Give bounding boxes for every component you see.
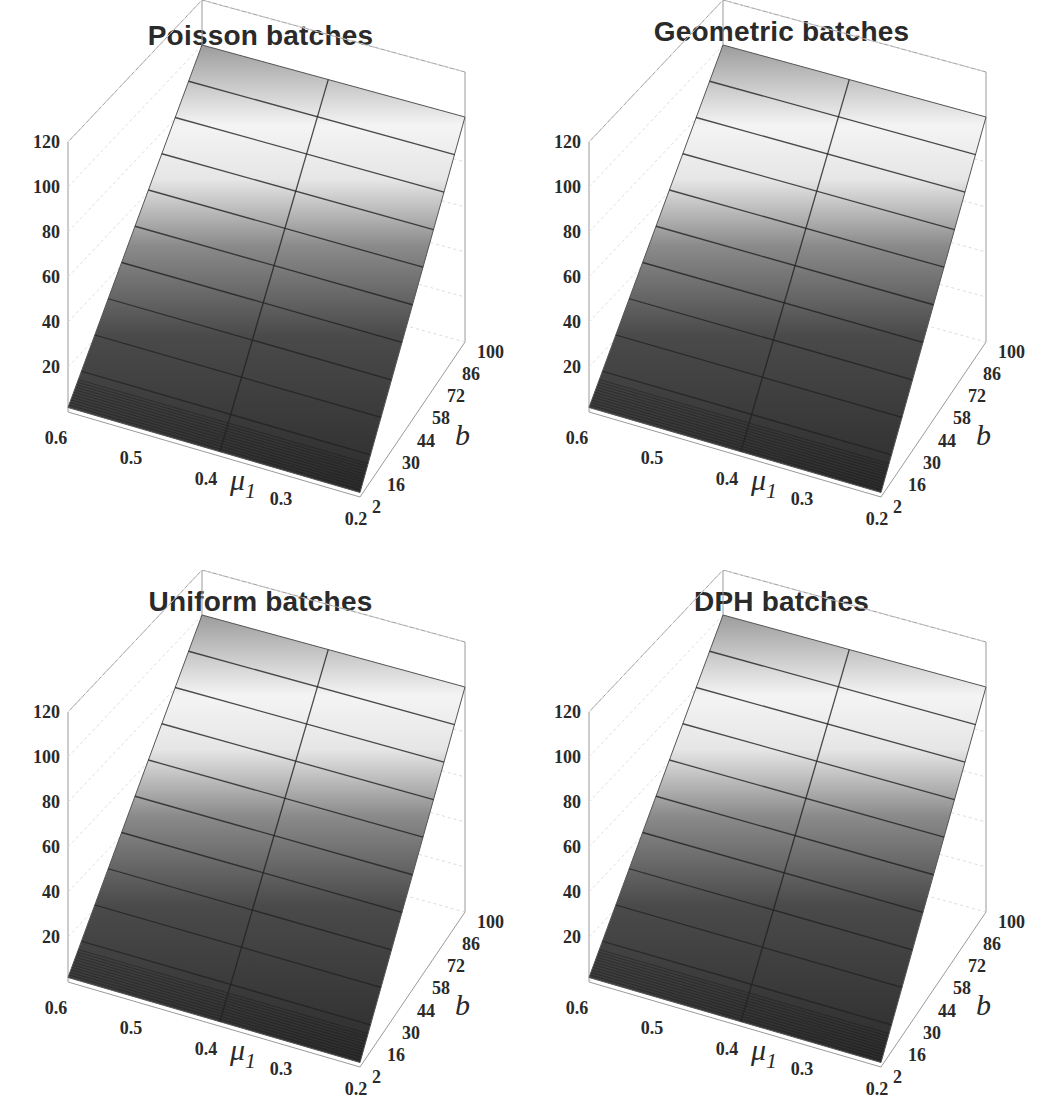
svg-text:100: 100 [477, 912, 504, 932]
svg-text:20: 20 [563, 357, 581, 377]
svg-text:100: 100 [998, 912, 1025, 932]
surface [68, 615, 465, 1063]
svg-text:80: 80 [42, 792, 60, 812]
svg-text:58: 58 [953, 978, 971, 998]
svg-text:2: 2 [893, 497, 902, 517]
surface-plot: 204060801001200.60.50.40.30.221630445872… [521, 0, 1042, 542]
chart-panel-poisson: Poisson batches 204060801001200.60.50.40… [0, 0, 521, 542]
x-axis-label: μ1 [750, 1033, 777, 1073]
chart-panel-uniform: Uniform batches 204060801001200.60.50.40… [0, 570, 521, 1099]
z-axis-ticks: 20406080100120 [33, 132, 60, 377]
svg-text:44: 44 [938, 1001, 956, 1021]
y-axis-label: b [455, 988, 470, 1021]
svg-text:0.6: 0.6 [566, 998, 589, 1018]
svg-text:100: 100 [554, 177, 581, 197]
svg-text:0.6: 0.6 [566, 428, 589, 448]
svg-text:40: 40 [563, 312, 581, 332]
svg-text:0.4: 0.4 [195, 1039, 218, 1059]
svg-text:30: 30 [402, 1023, 420, 1043]
svg-text:72: 72 [447, 386, 465, 406]
svg-text:30: 30 [923, 1023, 941, 1043]
svg-text:60: 60 [563, 837, 581, 857]
svg-text:86: 86 [462, 364, 480, 384]
svg-text:86: 86 [462, 934, 480, 954]
surface [589, 615, 986, 1063]
svg-text:40: 40 [42, 312, 60, 332]
svg-text:100: 100 [477, 342, 504, 362]
svg-text:0.4: 0.4 [195, 469, 218, 489]
svg-text:0.2: 0.2 [866, 509, 889, 529]
svg-text:44: 44 [938, 431, 956, 451]
svg-text:72: 72 [968, 386, 986, 406]
svg-text:0.5: 0.5 [641, 1018, 664, 1038]
svg-text:0.2: 0.2 [866, 1079, 889, 1099]
svg-text:100: 100 [998, 342, 1025, 362]
svg-text:40: 40 [563, 882, 581, 902]
svg-text:30: 30 [402, 453, 420, 473]
svg-text:16: 16 [908, 1045, 926, 1065]
svg-text:20: 20 [563, 927, 581, 947]
svg-text:60: 60 [42, 837, 60, 857]
svg-text:0.5: 0.5 [641, 448, 664, 468]
z-axis-ticks: 20406080100120 [554, 132, 581, 377]
svg-text:44: 44 [417, 1001, 435, 1021]
svg-text:0.4: 0.4 [716, 469, 739, 489]
svg-text:58: 58 [432, 978, 450, 998]
svg-text:16: 16 [387, 475, 405, 495]
svg-text:44: 44 [417, 431, 435, 451]
svg-text:0.3: 0.3 [791, 1059, 814, 1079]
y-axis-label: b [976, 988, 991, 1021]
y-axis-label: b [976, 418, 991, 451]
svg-text:58: 58 [953, 408, 971, 428]
svg-text:0.5: 0.5 [120, 1018, 143, 1038]
svg-text:72: 72 [447, 956, 465, 976]
z-axis-ticks: 20406080100120 [554, 702, 581, 947]
svg-text:0.4: 0.4 [716, 1039, 739, 1059]
svg-text:58: 58 [432, 408, 450, 428]
svg-text:16: 16 [908, 475, 926, 495]
svg-text:120: 120 [33, 132, 60, 152]
svg-text:2: 2 [372, 497, 381, 517]
svg-text:60: 60 [563, 267, 581, 287]
z-axis-ticks: 20406080100120 [33, 702, 60, 947]
svg-text:20: 20 [42, 927, 60, 947]
svg-text:30: 30 [923, 453, 941, 473]
svg-text:86: 86 [983, 934, 1001, 954]
svg-text:100: 100 [33, 747, 60, 767]
svg-text:120: 120 [554, 702, 581, 722]
svg-text:20: 20 [42, 357, 60, 377]
svg-text:0.2: 0.2 [345, 509, 368, 529]
svg-text:86: 86 [983, 364, 1001, 384]
svg-text:0.3: 0.3 [791, 489, 814, 509]
svg-text:0.6: 0.6 [45, 428, 68, 448]
svg-text:60: 60 [42, 267, 60, 287]
svg-text:0.2: 0.2 [345, 1079, 368, 1099]
svg-text:100: 100 [554, 747, 581, 767]
x-axis-label: μ1 [750, 463, 777, 503]
svg-text:80: 80 [563, 222, 581, 242]
svg-text:2: 2 [893, 1067, 902, 1087]
surface-plot: 204060801001200.60.50.40.30.221630445872… [0, 0, 521, 542]
svg-text:100: 100 [33, 177, 60, 197]
svg-text:0.3: 0.3 [270, 1059, 293, 1079]
surface [68, 45, 465, 493]
x-axis-label: μ1 [229, 463, 256, 503]
svg-text:0.5: 0.5 [120, 448, 143, 468]
surface [589, 45, 986, 493]
svg-text:80: 80 [42, 222, 60, 242]
svg-text:120: 120 [33, 702, 60, 722]
svg-text:0.3: 0.3 [270, 489, 293, 509]
svg-text:72: 72 [968, 956, 986, 976]
svg-text:40: 40 [42, 882, 60, 902]
svg-text:120: 120 [554, 132, 581, 152]
chart-panel-geometric: Geometric batches 204060801001200.60.50.… [521, 0, 1042, 542]
svg-text:0.6: 0.6 [45, 998, 68, 1018]
y-axis-label: b [455, 418, 470, 451]
svg-text:80: 80 [563, 792, 581, 812]
x-axis-label: μ1 [229, 1033, 256, 1073]
surface-plot: 204060801001200.60.50.40.30.221630445872… [521, 570, 1042, 1099]
surface-plot: 204060801001200.60.50.40.30.221630445872… [0, 570, 521, 1099]
svg-text:16: 16 [387, 1045, 405, 1065]
svg-text:2: 2 [372, 1067, 381, 1087]
chart-panel-dph: DPH batches 204060801001200.60.50.40.30.… [521, 570, 1042, 1099]
